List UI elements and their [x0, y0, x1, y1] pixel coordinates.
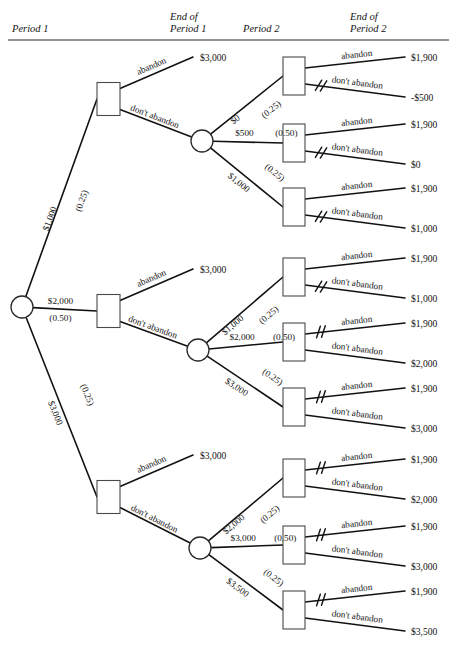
root-branch-value-2: $3,000 [46, 399, 65, 427]
p2-chance-branch-1 [213, 141, 283, 143]
p2-branch-prob-5: (0.25) [261, 367, 285, 388]
p2-abandon-label-2: abandon [341, 179, 373, 192]
p2-abandon-label-6: abandon [341, 450, 373, 463]
p2-chance-branch-2 [211, 148, 283, 207]
root-branch-prob-2: (0.25) [79, 383, 96, 407]
p1-dont-abandon-label-2: don't abandon [129, 503, 180, 535]
p1-abandon-label-2: abandon [135, 453, 168, 475]
p2-abandon-payoff-8: $1,900 [411, 586, 438, 597]
p2-abandon-payoff-5: $1,900 [411, 383, 438, 394]
root-branch-2 [26, 317, 97, 497]
p2-chance-branch-7 [211, 545, 283, 548]
p2-abandon-label-0: abandon [341, 48, 373, 61]
p2-abandon-payoff-0: $1,900 [411, 52, 438, 63]
decision-tree-canvas: Period 1End ofPeriod 1Period 2End ofPeri… [0, 0, 457, 658]
p1-abandon-label-0: abandon [135, 55, 168, 77]
p2-branch-prob-4: (0.50) [273, 332, 295, 342]
p2-abandon-payoff-7: $1,900 [411, 521, 438, 532]
p2-abandon-payoff-3: $1,900 [411, 253, 438, 264]
p2-dont-abandon-payoff-6: $2,000 [411, 494, 438, 505]
p2-abandon-label-5: abandon [341, 379, 373, 392]
prune-marks [315, 79, 326, 605]
p1-abandon-payoff-2: $3,000 [200, 450, 227, 461]
p2-branch-prob-2: (0.25) [263, 162, 287, 184]
column-header-0: Period 1 [11, 23, 48, 34]
p2-abandon-label-1: abandon [341, 115, 373, 128]
root-branch-value-0: $1,000 [41, 205, 59, 233]
p2-branch-prob-7: (0.50) [274, 533, 296, 543]
p1-abandon-payoff-0: $3,000 [200, 52, 227, 63]
p2-chance-branch-4 [209, 342, 283, 349]
p2-branch-prob-1: (0.50) [275, 128, 297, 138]
root-branch-prob-0: (0.25) [73, 189, 90, 213]
column-header-line2-1: Period 1 [169, 23, 206, 34]
decision-node-period1-2[interactable] [97, 481, 120, 514]
column-header-line1-1: End of [169, 11, 200, 22]
chance-node-root[interactable] [11, 296, 33, 318]
decision-tree-figure: Period 1End ofPeriod 1Period 2End ofPeri… [0, 0, 457, 658]
decision-node-period2-3[interactable] [283, 258, 305, 296]
tree-labels: $1,000(0.25)$2,000(0.50)$3,000(0.25)aban… [41, 48, 438, 637]
decision-node-period2-6[interactable] [283, 459, 305, 497]
p2-abandon-payoff-2: $1,900 [411, 183, 438, 194]
p2-branch-value-7: $3,000 [231, 533, 257, 543]
p2-dont-abandon-payoff-4: $2,000 [411, 358, 438, 369]
p2-branch-value-1: $500 [235, 128, 254, 138]
decision-node-period1-0[interactable] [97, 83, 120, 116]
decision-node-period2-0[interactable] [283, 57, 305, 95]
p2-abandon-label-8: abandon [341, 582, 373, 595]
p2-branch-prob-0: (0.25) [259, 99, 283, 121]
p2-dont-abandon-payoff-0: -$500 [411, 92, 434, 103]
p1-abandon-label-1: abandon [135, 267, 168, 289]
p2-branch-value-5: $3,000 [223, 376, 250, 399]
chance-node-period2-2[interactable] [189, 537, 211, 559]
column-header-line2-3: Period 2 [349, 23, 387, 34]
p2-branch-value-2: $1,000 [226, 171, 252, 195]
p2-abandon-payoff-6: $1,900 [411, 454, 438, 465]
p2-dont-abandon-payoff-8: $3,500 [411, 626, 438, 637]
p2-dont-abandon-payoff-3: $1,000 [411, 293, 438, 304]
decision-node-period2-5[interactable] [283, 388, 305, 426]
p2-dont-abandon-payoff-5: $3,000 [411, 423, 438, 434]
decision-node-period2-8[interactable] [283, 591, 305, 629]
chance-node-period2-1[interactable] [187, 339, 209, 361]
chance-node-period2-0[interactable] [191, 130, 213, 152]
p2-abandon-payoff-1: $1,900 [411, 119, 438, 130]
column-header-2: Period 2 [242, 23, 280, 34]
column-header-line1-3: End of [349, 11, 380, 22]
p2-chance-branch-8 [209, 555, 283, 610]
p1-abandon-payoff-1: $3,000 [200, 264, 227, 275]
p2-abandon-label-3: abandon [341, 249, 373, 262]
decision-node-period2-2[interactable] [283, 188, 305, 226]
p2-dont-abandon-payoff-7: $3,000 [411, 561, 438, 572]
p2-branch-prob-3: (0.25) [257, 304, 280, 326]
p2-branch-value-0: $0 [228, 112, 242, 126]
root-branch-1 [33, 308, 97, 311]
p2-abandon-label-7: abandon [341, 517, 373, 530]
root-branch-value-1: $2,000 [48, 296, 74, 306]
p2-branch-value-4: $2,000 [229, 332, 255, 342]
p2-dont-abandon-payoff-1: $0 [411, 159, 421, 170]
p2-branch-value-8: $3,500 [225, 576, 252, 599]
p2-dont-abandon-payoff-2: $1,000 [411, 223, 438, 234]
p2-branch-prob-8: (0.25) [262, 567, 286, 588]
p2-branch-prob-6: (0.25) [258, 503, 281, 525]
p2-abandon-payoff-4: $1,900 [411, 318, 438, 329]
column-headers: Period 1End ofPeriod 1Period 2End ofPeri… [8, 11, 449, 40]
p2-abandon-label-4: abandon [341, 314, 373, 327]
decision-node-period1-1[interactable] [97, 295, 120, 328]
root-branch-prob-1: (0.50) [49, 313, 71, 323]
